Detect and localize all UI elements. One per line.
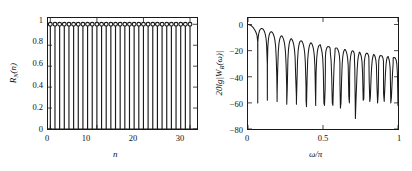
right-ytick-0: 0 [220, 21, 243, 30]
left-ytick-0.4: 0.4 [22, 81, 43, 90]
left-ytick-1: 1 [22, 16, 43, 25]
right-plot-ylabel: 20lg|WR(ω)| [215, 37, 225, 109]
stem-plot-canvas [48, 18, 197, 129]
magnitude-response-canvas [248, 18, 398, 129]
left-plot-xlabel: n [113, 150, 118, 159]
right-xtick-0: 0 [238, 134, 256, 143]
right-plot-axes [247, 17, 399, 130]
left-ytick-0.8: 0.8 [22, 37, 43, 46]
left-xtick-30: 30 [171, 134, 189, 143]
matlab-figure: 1 0.8 0.6 0.4 0.2 0 0 10 20 30 RN(n) n 0… [0, 0, 412, 171]
rectangular-window-frequency-response-panel: 0 −20 −40 −60 −80 0 0.5 1 20lg|WR(ω)| ω/… [206, 0, 412, 171]
left-ytick-0.6: 0.6 [22, 59, 43, 68]
left-plot-ylabel: RN(n) [9, 51, 19, 95]
left-ytick-0: 0 [22, 125, 43, 134]
left-xtick-10: 10 [77, 134, 95, 143]
rectangular-window-time-domain-panel: 1 0.8 0.6 0.4 0.2 0 0 10 20 30 RN(n) n [0, 0, 206, 171]
left-plot-axes [47, 17, 198, 130]
right-xtick-0.5: 0.5 [314, 134, 332, 143]
left-ytick-0.2: 0.2 [22, 103, 43, 112]
right-plot-xlabel: ω/π [309, 150, 322, 159]
left-xtick-20: 20 [124, 134, 142, 143]
left-xtick-0: 0 [38, 134, 56, 143]
right-xtick-1: 1 [390, 134, 408, 143]
